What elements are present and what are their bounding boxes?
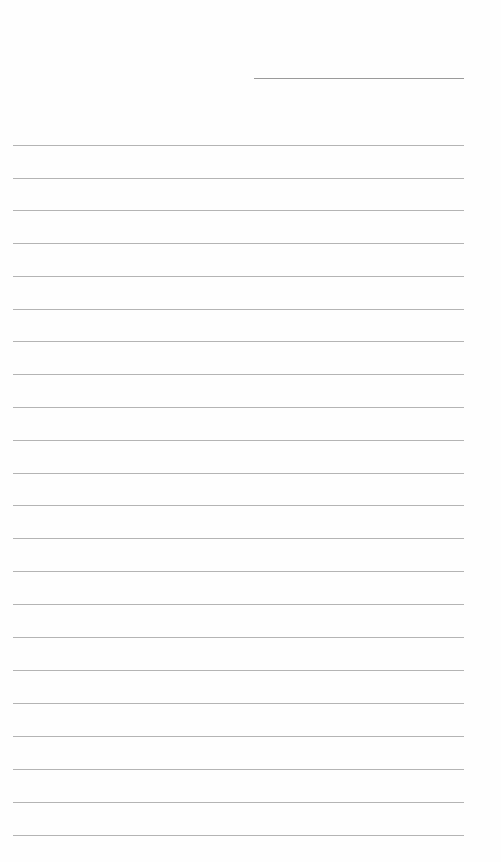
ruled-lines-container bbox=[0, 0, 501, 862]
ruled-line bbox=[13, 178, 464, 179]
ruled-line bbox=[13, 802, 464, 803]
ruled-line bbox=[13, 341, 464, 342]
ruled-line bbox=[13, 505, 464, 506]
ruled-line bbox=[13, 637, 464, 638]
ruled-line bbox=[13, 440, 464, 441]
ruled-line bbox=[13, 276, 464, 277]
ruled-line bbox=[13, 835, 464, 836]
lined-paper-page bbox=[0, 0, 501, 862]
ruled-line bbox=[13, 736, 464, 737]
ruled-line bbox=[13, 604, 464, 605]
ruled-line bbox=[13, 374, 464, 375]
ruled-line bbox=[13, 703, 464, 704]
ruled-line bbox=[13, 407, 464, 408]
ruled-line bbox=[13, 243, 464, 244]
ruled-line bbox=[13, 538, 464, 539]
ruled-line bbox=[13, 309, 464, 310]
ruled-line bbox=[13, 670, 464, 671]
ruled-line bbox=[13, 473, 464, 474]
ruled-line bbox=[13, 210, 464, 211]
ruled-line bbox=[13, 571, 464, 572]
ruled-line bbox=[13, 769, 464, 770]
ruled-line bbox=[13, 145, 464, 146]
